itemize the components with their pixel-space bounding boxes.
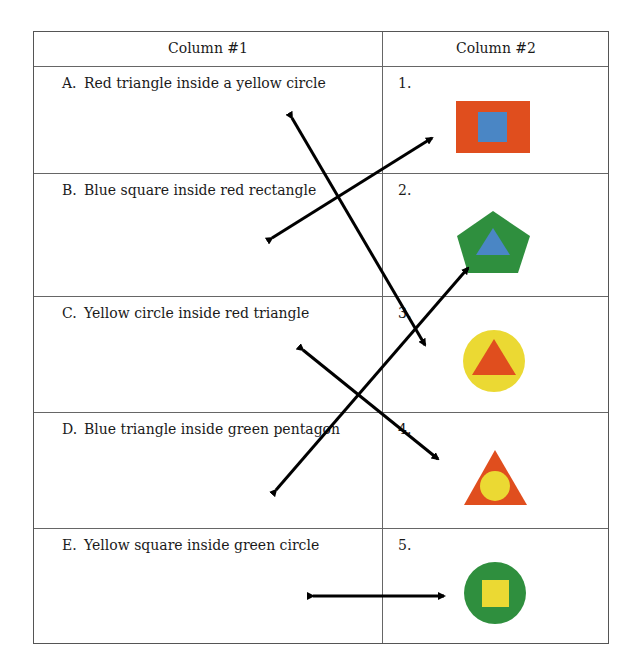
column1-item: B.Blue square inside red rectangle	[62, 182, 316, 198]
table-row: E.Yellow square inside green circle 5.	[34, 528, 608, 645]
column1-item: C.Yellow circle inside red triangle	[62, 305, 309, 321]
column2-number: 3.	[398, 305, 411, 321]
column1-item: E.Yellow square inside green circle	[62, 537, 319, 553]
header-column-1: Column #1	[34, 40, 382, 56]
table-row: A.Red triangle inside a yellow circle 1.	[34, 66, 608, 173]
column1-item: A.Red triangle inside a yellow circle	[62, 75, 326, 91]
table-row: B.Blue square inside red rectangle 2.	[34, 173, 608, 296]
column2-number: 2.	[398, 182, 411, 198]
column1-item: D.Blue triangle inside green pentagon	[62, 421, 340, 437]
column2-number: 4.	[398, 421, 411, 437]
column2-number: 1.	[398, 75, 411, 91]
table-row: D.Blue triangle inside green pentagon 4.	[34, 412, 608, 528]
table-row: C.Yellow circle inside red triangle 3.	[34, 296, 608, 412]
column2-number: 5.	[398, 537, 411, 553]
header-column-2: Column #2	[382, 40, 610, 56]
matching-table: Column #1 Column #2 A.Red triangle insid…	[33, 31, 609, 644]
